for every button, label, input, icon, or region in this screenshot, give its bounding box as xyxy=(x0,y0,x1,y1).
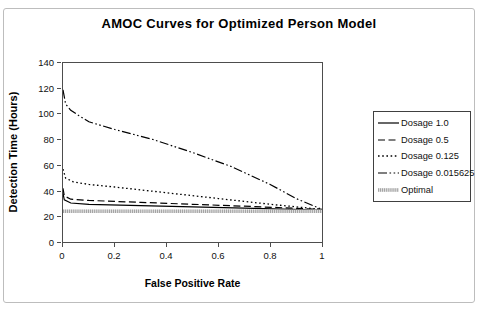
series-line-dosage-0-5 xyxy=(63,188,322,209)
legend-item-label: Dosage 0.5 xyxy=(401,135,449,145)
legend-line-sample xyxy=(378,135,400,145)
legend-item: Dosage 0.125 xyxy=(378,151,468,161)
legend-line-sample xyxy=(378,118,400,128)
legend-item-label: Optimal xyxy=(401,185,433,195)
chart-canvas: AMOC Curves for Optimized Person Model 0… xyxy=(0,0,478,314)
plot-area xyxy=(62,62,323,243)
legend-item: Dosage 0.5 xyxy=(378,135,468,145)
legend-line-sample xyxy=(378,185,400,195)
chart-title: AMOC Curves for Optimized Person Model xyxy=(0,16,478,31)
y-axis-title: Detection Time (Hours) xyxy=(7,62,21,242)
legend-item: Optimal xyxy=(378,185,468,195)
legend-line-sample xyxy=(378,151,400,161)
legend-item-label: Dosage 0.015625 xyxy=(401,168,474,178)
series-line-dosage-0-125 xyxy=(63,169,322,209)
series-line-dosage-1-0 xyxy=(63,193,322,210)
series-line-dosage-0-015625 xyxy=(63,90,322,210)
legend-item-label: Dosage 1.0 xyxy=(401,118,449,128)
legend-item: Dosage 1.0 xyxy=(378,118,468,128)
amoc-curves-plot xyxy=(63,63,322,242)
legend: Dosage 1.0Dosage 0.5Dosage 0.125Dosage 0… xyxy=(373,111,471,202)
legend-item: Dosage 0.015625 xyxy=(378,168,468,178)
x-axis-title: False Positive Rate xyxy=(62,277,323,289)
legend-line-sample xyxy=(378,168,400,178)
legend-item-label: Dosage 0.125 xyxy=(401,151,459,161)
